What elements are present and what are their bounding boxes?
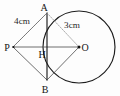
- label-point-o: O: [81, 42, 88, 53]
- label-point-h: H: [38, 49, 45, 60]
- geometry-canvas: A B P O H 4cm 3cm: [0, 0, 120, 96]
- label-dimension-pa: 4cm: [14, 16, 30, 26]
- label-dimension-ao: 3cm: [64, 20, 80, 30]
- segment-bo-radius: [47, 47, 79, 80]
- segment-ao-radius: [47, 13, 79, 47]
- label-point-p: P: [4, 42, 10, 53]
- point-p-dot: [12, 46, 14, 48]
- center-point-dot: [78, 46, 81, 49]
- label-point-a: A: [40, 2, 48, 13]
- label-point-b: B: [42, 84, 49, 95]
- geometry-figure: A B P O H 4cm 3cm: [0, 0, 120, 96]
